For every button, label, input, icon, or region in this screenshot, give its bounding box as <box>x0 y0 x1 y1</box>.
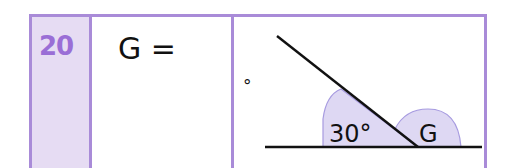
given-angle-label: 30° <box>329 120 372 148</box>
answer-cell[interactable]: G = ° <box>92 17 234 168</box>
answer-variable: G <box>118 31 141 66</box>
equals-sign: = <box>151 31 176 66</box>
angle-diagram-cell: 30° G <box>234 17 484 168</box>
question-number-cell: 20 <box>32 17 92 168</box>
question-box: 20 G = ° 30° G <box>29 14 487 168</box>
angle-diagram: 30° G <box>234 17 490 168</box>
question-number: 20 <box>39 31 73 61</box>
answer-prompt: G = <box>118 31 176 66</box>
unknown-angle-label: G <box>419 120 438 148</box>
